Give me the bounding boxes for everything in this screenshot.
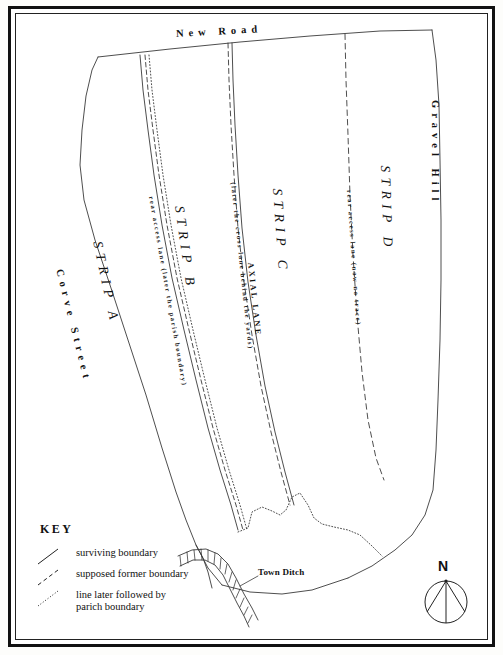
key-title: KEY	[40, 522, 251, 537]
boundary-corve-street	[80, 57, 222, 585]
dotted-lower-boundary	[238, 493, 382, 556]
map-page: New Road Gravel Hill Corve Street STRIP …	[0, 0, 503, 655]
key-label-supposed-former-boundary: supposed former boundary	[76, 568, 189, 580]
key-entry-supposed-former-boundary: supposed former boundary	[36, 568, 251, 589]
key-entry-surviving-boundary: surviving boundary	[36, 547, 251, 568]
map-key: KEY surviving boundary supposed former b…	[36, 522, 251, 617]
division-a-b-solid	[140, 55, 238, 530]
annotation-town-ditch: Town Ditch	[258, 568, 304, 577]
boundary-gravel-hill	[348, 30, 441, 578]
key-label-surviving-boundary: surviving boundary	[76, 547, 158, 559]
compass-rose: N	[420, 560, 476, 630]
compass-north-label: N	[438, 558, 448, 574]
key-sample-dashed-line	[36, 568, 62, 588]
key-label-parish-boundary-line: line later followed by parich boundary	[76, 589, 166, 612]
key-sample-solid-line	[36, 547, 62, 567]
boundary-new-road	[98, 30, 432, 57]
label-gravel-hill: Gravel Hill	[430, 100, 441, 205]
key-sample-dotted-line	[36, 589, 62, 609]
division-a-b-dashed	[145, 55, 243, 530]
key-entry-parish-boundary-line: line later followed by parich boundary	[36, 589, 251, 617]
label-strip-d: STRIP D	[379, 165, 396, 252]
